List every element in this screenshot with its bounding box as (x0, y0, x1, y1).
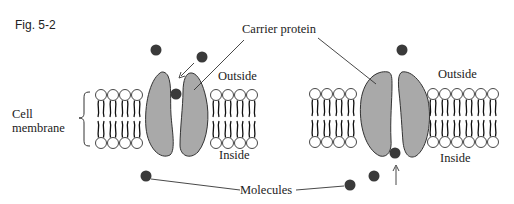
label-inside-left: Inside (219, 149, 250, 162)
carrier-protein-right-half-a (360, 72, 392, 157)
label-outside-right: Outside (438, 68, 477, 81)
label-membrane: membrane (12, 122, 65, 135)
molecule (151, 45, 162, 56)
carrier-protein-left-half-a (146, 72, 174, 156)
lipid-group-right-a (310, 89, 357, 148)
lipid-group-left-b (211, 90, 258, 149)
molecule (171, 89, 182, 100)
label-outside-left: Outside (218, 70, 257, 83)
figure-number: Fig. 5-2 (15, 18, 56, 32)
label-cell: Cell (12, 108, 33, 121)
lipid-group-left-a (96, 90, 143, 149)
label-molecules: Molecules (240, 184, 292, 197)
lipid-group-right-b (428, 89, 499, 148)
carrier-protein-left-half-b (180, 73, 208, 156)
carrier-protein-right-half-b (398, 72, 429, 157)
membrane-brace (79, 92, 90, 146)
label-inside-right: Inside (440, 152, 471, 165)
molecule (197, 52, 208, 63)
molecule (390, 148, 401, 159)
molecule (345, 180, 356, 191)
label-carrier-protein: Carrier protein (242, 23, 316, 36)
molecule (369, 171, 380, 182)
molecule (397, 45, 408, 56)
arrow-icon (393, 165, 399, 185)
molecule (141, 171, 152, 182)
